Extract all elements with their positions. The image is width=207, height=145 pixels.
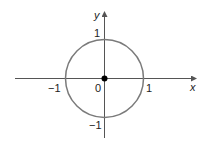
tick-label-y-pos: 1 — [94, 27, 100, 39]
origin-point — [102, 76, 108, 82]
tick-label-x-neg: −1 — [48, 82, 61, 94]
tick-label-y-neg: −1 — [89, 119, 102, 131]
x-axis-label: x — [189, 81, 196, 93]
unit-circle-diagram: y x 1 −1 −1 1 0 — [0, 0, 207, 145]
tick-label-x-pos: 1 — [146, 82, 152, 94]
y-axis-label: y — [93, 9, 101, 21]
tick-label-origin: 0 — [95, 82, 101, 94]
